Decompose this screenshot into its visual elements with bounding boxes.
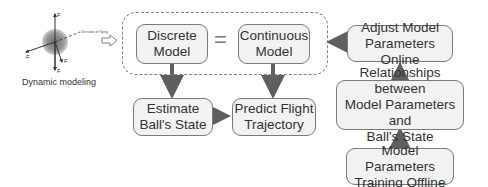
input-arrow-icon xyxy=(102,35,117,46)
relationships-box: Relationships between Model Parameters a… xyxy=(336,80,464,130)
training-offline-box: Model Parameters Training Offline xyxy=(346,148,454,185)
equals-sign: = xyxy=(214,27,227,53)
svg-text:F: F xyxy=(57,68,61,74)
dynamic-modeling-caption: Dynamic modeling xyxy=(22,77,96,87)
adjust-params-box: Adjust Model Parameters Online xyxy=(347,25,453,62)
estimate-state-box: Estimate Ball's State xyxy=(133,98,213,136)
svg-text:Direction of flying: Direction of flying xyxy=(81,30,108,34)
svg-text:F: F xyxy=(26,54,30,60)
svg-text:F: F xyxy=(57,12,61,18)
predict-trajectory-box: Predict Flight Trajectory xyxy=(232,98,316,136)
svg-text:F: F xyxy=(64,58,68,64)
ball-illustration: F F F F Direction of flying xyxy=(26,12,108,74)
continuous-model-box: Continuous Model xyxy=(238,24,310,64)
discrete-model-box: Discrete Model xyxy=(136,24,208,64)
